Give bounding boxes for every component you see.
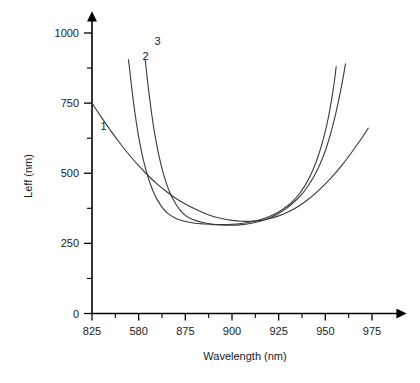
- x-tick-label: 580: [129, 325, 147, 337]
- data-curve-2: [128, 60, 336, 225]
- curve-label-3: 3: [155, 35, 161, 47]
- data-curves: [92, 60, 368, 225]
- chart-plot-area: 825580875900925950975 02505007501000 123…: [0, 0, 420, 383]
- y-tick-label: 0: [73, 308, 79, 320]
- data-curve-1: [92, 103, 368, 221]
- x-tick-label: 825: [83, 325, 101, 337]
- y-tick-label: 1000: [55, 27, 79, 39]
- y-tick-label: 250: [61, 237, 79, 249]
- y-axis-title: Leff (nm): [22, 154, 34, 198]
- x-axis-ticks: 825580875900925950975: [83, 314, 381, 337]
- y-tick-label: 500: [61, 167, 79, 179]
- x-tick-label: 900: [223, 325, 241, 337]
- x-tick-label: 875: [176, 325, 194, 337]
- x-tick-label: 925: [269, 325, 287, 337]
- x-axis-title: Wavelength (nm): [203, 350, 286, 362]
- chart-figure: 825580875900925950975 02505007501000 123…: [0, 0, 420, 383]
- y-tick-label: 750: [61, 97, 79, 109]
- x-tick-label: 975: [363, 325, 381, 337]
- axes-group: [92, 20, 398, 314]
- curve-label-1: 1: [100, 120, 106, 132]
- y-axis-ticks: 02505007501000: [55, 27, 92, 320]
- curve-label-2: 2: [142, 50, 148, 62]
- x-tick-label: 950: [316, 325, 334, 337]
- data-curve-3: [145, 60, 345, 225]
